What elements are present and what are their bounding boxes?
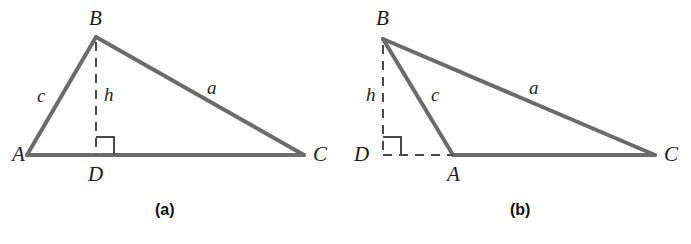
vertex-label-D: D bbox=[354, 144, 369, 165]
vertex-label-A: A bbox=[12, 144, 25, 165]
figure-panel-a: A B C D c h a (a) bbox=[0, 0, 345, 244]
side-label-c: c bbox=[37, 86, 45, 105]
vertex-label-B: B bbox=[376, 8, 389, 29]
right-angle-marker-D bbox=[96, 137, 114, 155]
right-angle-marker-D bbox=[383, 137, 401, 155]
vertex-label-C: C bbox=[313, 144, 327, 165]
panel-caption-a: (a) bbox=[155, 202, 175, 218]
panel-caption-b: (b) bbox=[510, 202, 530, 218]
vertex-label-A: A bbox=[447, 164, 460, 185]
figure-root: A B C D c h a (a) B D A C h c a bbox=[0, 0, 691, 244]
altitude-label-h: h bbox=[366, 85, 376, 104]
segment-BC-side-a bbox=[383, 39, 655, 155]
side-label-a: a bbox=[207, 78, 217, 97]
altitude-label-h: h bbox=[104, 85, 114, 104]
side-label-c: c bbox=[431, 85, 439, 104]
figure-panel-b: B D A C h c a (b) bbox=[345, 0, 691, 244]
side-label-a: a bbox=[529, 78, 539, 97]
vertex-label-C: C bbox=[664, 144, 678, 165]
segment-BC-side-a bbox=[96, 37, 304, 155]
vertex-label-D: D bbox=[88, 164, 103, 185]
vertex-label-B: B bbox=[89, 8, 102, 29]
